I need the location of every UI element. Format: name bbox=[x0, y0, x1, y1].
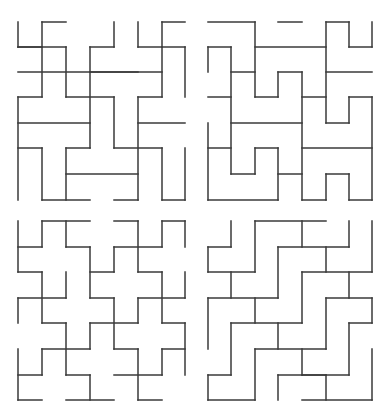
maze-diagram bbox=[0, 0, 389, 418]
maze-panel-bottom-right bbox=[208, 221, 372, 400]
maze-panel-top-right bbox=[208, 22, 372, 200]
maze-panel-bottom-left bbox=[18, 221, 185, 400]
maze-panel-top-left bbox=[18, 22, 185, 200]
